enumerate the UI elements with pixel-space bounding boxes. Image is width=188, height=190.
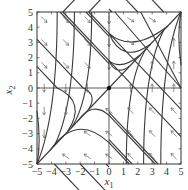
direction-arrow bbox=[84, 131, 91, 136]
direction-arrow bbox=[171, 108, 177, 114]
y-tick-label: −5 bbox=[22, 159, 33, 170]
x-tick-label: 4 bbox=[164, 166, 169, 177]
trajectory-upper bbox=[89, 0, 109, 12]
phase-portrait: −5−4−3−2−1012345−5−4−3−2−1012345 x1 x2 bbox=[0, 0, 188, 190]
fixed-point-origin bbox=[107, 86, 111, 90]
direction-arrow bbox=[171, 153, 177, 159]
direction-arrow bbox=[172, 61, 175, 69]
direction-arrow bbox=[63, 39, 69, 45]
x-tick-label: −1 bbox=[89, 166, 100, 177]
direction-arrow bbox=[41, 62, 47, 68]
x-tick-label: 1 bbox=[121, 166, 126, 177]
y-tick-label: −2 bbox=[22, 113, 33, 124]
y-axis-label: x2 bbox=[2, 86, 17, 96]
y-tick-label: 1 bbox=[28, 67, 33, 78]
y-tick-label: 3 bbox=[28, 37, 33, 48]
x-tick-label: 2 bbox=[135, 166, 140, 177]
direction-arrow bbox=[85, 17, 91, 23]
direction-arrow bbox=[41, 17, 47, 23]
trajectory-upper bbox=[37, 67, 75, 132]
trajectory-upper bbox=[60, 12, 109, 64]
x-tick-label: −2 bbox=[75, 166, 86, 177]
trajectory-upper bbox=[86, 12, 109, 36]
x-tick-label: −4 bbox=[46, 166, 57, 177]
direction-arrow bbox=[127, 17, 134, 21]
direction-arrow bbox=[63, 154, 70, 159]
direction-arrow bbox=[149, 17, 156, 21]
direction-arrow bbox=[43, 107, 46, 115]
direction-arrow bbox=[128, 153, 134, 159]
y-tick-label: 4 bbox=[28, 22, 33, 33]
trajectory-upper bbox=[141, 12, 181, 88]
y-tick-label: 5 bbox=[28, 7, 33, 18]
x-tick-label: 5 bbox=[179, 166, 184, 177]
y-tick-label: −4 bbox=[22, 143, 33, 154]
y-tick-label: 0 bbox=[28, 83, 33, 94]
x-tick-label: 3 bbox=[150, 166, 155, 177]
y-tick-label: 2 bbox=[28, 52, 33, 63]
y-tick-label: −1 bbox=[22, 98, 33, 109]
trajectory-lower bbox=[109, 140, 132, 164]
trajectory-lower bbox=[109, 112, 158, 164]
direction-arrow bbox=[84, 154, 91, 159]
trajectory-lower bbox=[50, 129, 129, 164]
x-axis-label: x1 bbox=[104, 175, 114, 190]
x-tick-label: −5 bbox=[32, 166, 43, 177]
direction-arrow bbox=[149, 131, 155, 137]
direction-arrow bbox=[172, 38, 175, 46]
trajectory-upper bbox=[63, 0, 109, 12]
trajectory-upper bbox=[109, 0, 138, 12]
y-tick-label: −3 bbox=[22, 128, 33, 139]
direction-arrow bbox=[43, 129, 46, 137]
x-tick-label: −3 bbox=[60, 166, 71, 177]
